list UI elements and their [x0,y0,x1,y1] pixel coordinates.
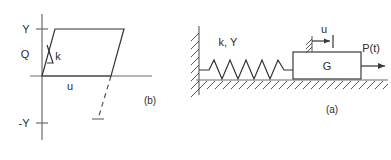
label-displacement-u: u [321,23,327,35]
panel-spring-mass-system: G u P(t) k, Y [191,23,388,115]
displacement-marker [306,35,333,53]
label-u-axis: u [67,80,73,92]
panel-hysteresis-plot: Y -Y Q u k (b) [19,14,157,140]
figure-svg: Y -Y Q u k (b) [0,0,391,160]
label-stiffness-k: k [55,50,61,62]
unloading-branch-path [98,76,111,119]
caption-panel-a: (a) [326,104,338,115]
label-q-axis: Q [21,48,30,60]
caption-panel-b: (b) [144,95,156,106]
spring-coil [199,60,293,79]
label-mass-g: G [323,60,332,72]
figure-container: Y -Y Q u k (b) [0,0,391,160]
label-y-positive: Y [22,23,30,35]
wall-hatching [191,33,199,97]
label-y-negative: -Y [19,117,31,129]
ground-hatching [199,81,388,89]
label-spring-ky: k, Y [219,36,238,48]
label-force-pt: P(t) [362,42,380,54]
